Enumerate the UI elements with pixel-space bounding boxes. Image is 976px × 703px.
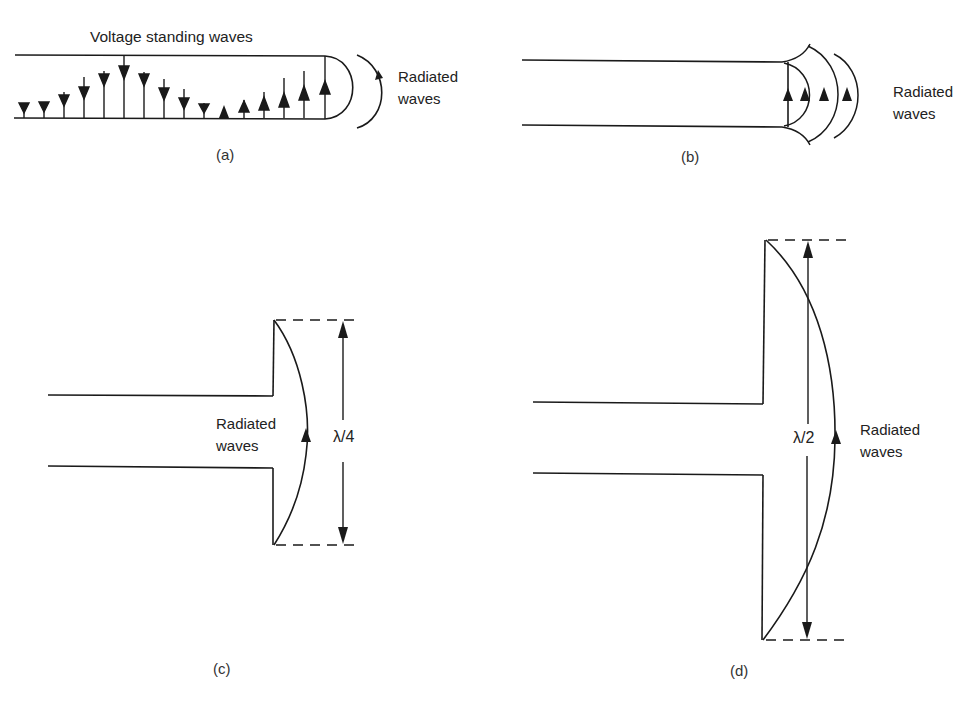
panel-c-dimension-label: λ/4 [331, 426, 356, 447]
panel-c-radiated-line2: waves [216, 435, 276, 457]
panel-b-radiated-label: Radiated waves [893, 81, 953, 125]
panel-b-caption: (b) [681, 148, 699, 165]
antenna-diagram [0, 0, 976, 703]
panel-b-wave-arrows [800, 87, 852, 101]
panel-b-line-arrow-icon [783, 88, 793, 101]
panel-a-radiated-wave-arc [357, 55, 383, 128]
panel-a-voltage-arrows-down [19, 56, 209, 118]
panel-a-radiated-label: Radiated waves [398, 66, 458, 110]
panel-a-caption: (a) [216, 146, 234, 163]
panel-c-wave-arrow-icon [301, 428, 311, 442]
panel-b-radiated-line2: waves [893, 103, 953, 125]
panel-b-radiated-line1: Radiated [893, 81, 953, 103]
panel-c-radiated-line1: Radiated [216, 413, 276, 435]
panel-a-radiated-line1: Radiated [398, 66, 458, 88]
panel-d-radiated-line2: waves [860, 441, 920, 463]
panel-b-transmission-line [522, 60, 788, 127]
panel-d-dimension-label: λ/2 [792, 427, 815, 448]
panel-a-radiated-line2: waves [398, 88, 458, 110]
panel-d-caption: (d) [730, 662, 748, 679]
panel-a-title: Voltage standing waves [90, 26, 253, 47]
panel-c-caption: (c) [213, 660, 231, 677]
panel-d-radiated-label: Radiated waves [860, 419, 920, 463]
panel-c-radiated-label: Radiated waves [216, 413, 276, 457]
panel-d-half-wave-antenna [533, 240, 835, 640]
panel-a-voltage-arrows-up [219, 56, 330, 119]
panel-d-radiated-line1: Radiated [860, 419, 920, 441]
panel-d-wave-arrow-icon [831, 430, 841, 444]
